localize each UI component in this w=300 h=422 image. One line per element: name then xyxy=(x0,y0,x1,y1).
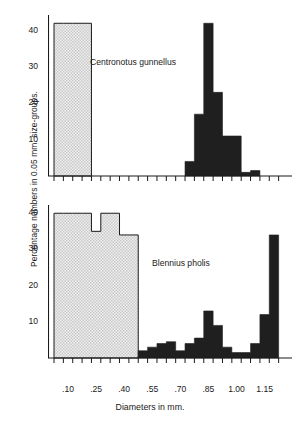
panel-centronotus-gunnellus xyxy=(48,14,292,190)
y-tick-label: 20 xyxy=(18,280,38,290)
x-tick-label: .10 xyxy=(53,384,83,394)
y-tick-label: 30 xyxy=(18,61,38,71)
x-tick-label: .40 xyxy=(109,384,139,394)
x-tick-label: 1.00 xyxy=(222,384,252,394)
x-tick-label: 1.15 xyxy=(250,384,280,394)
figure-root: Percentage numbers in 0.05 mm. size-grou… xyxy=(0,0,300,422)
species-label-top: Centronotus gunnellus xyxy=(90,57,176,67)
y-tick-label: 10 xyxy=(18,134,38,144)
panel-blennius-pholis xyxy=(48,204,292,372)
x-tick-label: .70 xyxy=(165,384,195,394)
species-label-bottom: Blennius pholis xyxy=(152,258,210,268)
y-tick-label: 10 xyxy=(18,316,38,326)
x-tick-label: .55 xyxy=(137,384,167,394)
x-tick-label: .85 xyxy=(193,384,223,394)
y-tick-label: 30 xyxy=(18,243,38,253)
histogram-blennius-pholis xyxy=(48,204,292,372)
y-tick-label: 40 xyxy=(18,207,38,217)
y-tick-label: 20 xyxy=(18,97,38,107)
y-tick-label: 40 xyxy=(18,25,38,35)
x-tick-label: .25 xyxy=(81,384,111,394)
x-axis-label: Diameters in mm. xyxy=(0,402,300,412)
histogram-centronotus-gunnellus xyxy=(48,14,292,190)
